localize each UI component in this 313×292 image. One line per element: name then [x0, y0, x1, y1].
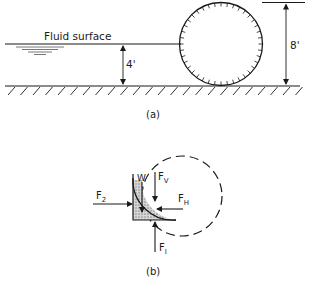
force-f1-label: FI — [159, 242, 167, 256]
force-f2-label: F2 — [96, 190, 106, 204]
fluid-surface-label: Fluid surface — [44, 30, 111, 42]
force-fh-label: FH — [178, 193, 189, 207]
part-b: F2 W FV FH FI (b) — [93, 156, 222, 277]
force-w-label: W — [137, 173, 146, 183]
caption-a: (a) — [146, 109, 160, 120]
cylinder-ticks — [180, 3, 263, 86]
force-fv-label: FV — [158, 171, 169, 185]
caption-b: (b) — [146, 266, 160, 277]
water-surface-symbol-icon — [16, 47, 64, 55]
part-a: Fluid surface 4' 8' (a) — [5, 3, 305, 121]
depth-label: 4' — [126, 58, 136, 70]
figure: Fluid surface 4' 8' (a) F2 W — [0, 0, 313, 292]
shaded-fluid-region — [133, 180, 173, 220]
diameter-label: 8' — [290, 39, 300, 51]
ground-hatching — [8, 87, 303, 95]
